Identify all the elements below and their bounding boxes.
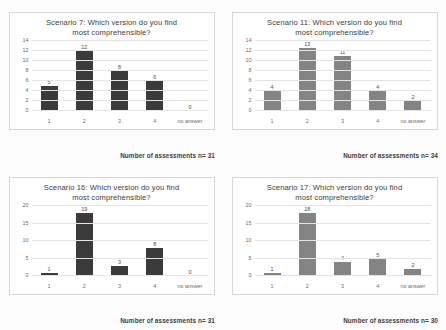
assessments-count: Number of assessments n= 31 (120, 317, 215, 324)
y-axis-tick-label: 10 (246, 57, 252, 63)
gridline: 15 (255, 223, 431, 224)
bar-slot: 1 (255, 206, 290, 276)
gridline: 0 (32, 110, 208, 111)
chart-title: Scenario 7: Which version do you find mo… (18, 18, 206, 38)
bar-value-label: 13 (304, 41, 310, 47)
gridline: 0 (255, 110, 431, 111)
x-axis-labels: 1234no answer (32, 283, 208, 289)
gridline: 8 (32, 70, 208, 71)
bar-slot: 19 (67, 206, 102, 276)
gridline: 6 (32, 80, 208, 81)
y-axis-tick-label: 12 (246, 47, 252, 53)
gridline: 10 (255, 60, 431, 61)
x-axis-tick-label: 1 (255, 283, 290, 289)
x-axis-tick-label: 3 (102, 118, 137, 124)
bar[interactable] (369, 259, 386, 277)
y-axis-tick-label: 5 (249, 255, 252, 261)
x-axis-tick-label: 4 (360, 283, 395, 289)
chart-sheet: Scenario 7: Which version do you find mo… (0, 0, 446, 330)
x-axis-tick-label: 4 (360, 118, 395, 124)
bar-slot: 0 (172, 206, 207, 276)
gridline: 14 (32, 40, 208, 41)
gridline: 12 (255, 50, 431, 51)
y-axis-tick-label: 0 (249, 107, 252, 113)
y-axis-tick-label: 4 (249, 87, 252, 93)
x-axis-labels: 1234no answer (32, 118, 208, 124)
x-axis-tick-label: 2 (67, 283, 102, 289)
gridline: 2 (255, 100, 431, 101)
bar-slot: 8 (137, 206, 172, 276)
bar-slot: 4 (325, 206, 360, 276)
y-axis-tick-label: 14 (246, 37, 252, 43)
x-axis-tick-label: 2 (290, 118, 325, 124)
bar[interactable] (146, 248, 163, 276)
gridline: 8 (255, 70, 431, 71)
chart-panel: Scenario 11: Which version do you find m… (232, 12, 438, 130)
chart-cell-scenario-11: Scenario 11: Which version do you find m… (223, 0, 446, 165)
bar[interactable] (146, 81, 163, 111)
bar-series: 119380 (32, 206, 208, 276)
gridline: 20 (32, 205, 208, 206)
y-axis-tick-label: 0 (249, 272, 252, 278)
chart-title: Scenario 17: Which version do you find m… (241, 183, 429, 203)
chart-cell-scenario-7: Scenario 7: Which version do you find mo… (0, 0, 223, 165)
chart-title-line-1: Scenario 11: Which version do you find (241, 18, 429, 28)
gridline: 10 (32, 60, 208, 61)
bar[interactable] (334, 262, 351, 276)
y-axis-tick-label: 0 (26, 272, 29, 278)
gridline: 10 (255, 240, 431, 241)
bar[interactable] (264, 91, 281, 111)
x-axis-labels: 1234no answer (255, 283, 431, 289)
gridline: 5 (255, 258, 431, 259)
chart-cell-scenario-16: Scenario 16: Which version do you find m… (0, 165, 223, 330)
gridline: 0 (255, 275, 431, 276)
bar-value-label: 1 (48, 266, 51, 272)
y-axis-tick-label: 14 (23, 37, 29, 43)
x-axis-tick-label: no answer (395, 283, 430, 289)
gridline: 0 (32, 275, 208, 276)
y-axis-tick-label: 10 (23, 237, 29, 243)
bar-slot: 3 (102, 206, 137, 276)
x-axis-tick-label: 3 (325, 118, 360, 124)
bar-slot: 2 (395, 206, 430, 276)
x-axis-tick-label: 1 (32, 118, 67, 124)
gridline: 6 (255, 80, 431, 81)
bar[interactable] (334, 56, 351, 111)
plot-area: 119380 05101520 (32, 206, 208, 276)
assessments-count: Number of assessments n= 31 (120, 152, 215, 159)
x-axis-labels: 1234no answer (255, 118, 431, 124)
y-axis-tick-label: 20 (246, 202, 252, 208)
bar-value-label: 8 (153, 241, 156, 247)
x-axis-tick-label: no answer (172, 283, 207, 289)
gridline: 4 (32, 90, 208, 91)
y-axis-tick-label: 15 (246, 220, 252, 226)
bar-value-label: 18 (304, 206, 310, 212)
y-axis-tick-label: 0 (26, 107, 29, 113)
gridline: 10 (32, 240, 208, 241)
gridline: 15 (32, 223, 208, 224)
x-axis-tick-label: 4 (137, 283, 172, 289)
gridline: 4 (255, 90, 431, 91)
y-axis-tick-label: 8 (249, 67, 252, 73)
y-axis-tick-label: 6 (249, 77, 252, 83)
chart-grid: Scenario 7: Which version do you find mo… (0, 0, 446, 330)
bar[interactable] (369, 91, 386, 111)
chart-title-line-2: most comprehensible? (18, 193, 206, 203)
y-axis-tick-label: 2 (249, 97, 252, 103)
bar-value-label: 1 (271, 266, 274, 272)
x-axis-tick-label: 3 (102, 283, 137, 289)
y-axis-tick-label: 10 (23, 57, 29, 63)
y-axis-tick-label: 12 (23, 47, 29, 53)
x-axis-tick-label: no answer (172, 118, 207, 124)
bar[interactable] (111, 71, 128, 111)
y-axis-tick-label: 8 (26, 67, 29, 73)
chart-title-line-1: Scenario 17: Which version do you find (241, 183, 429, 193)
plot-area: 512860 02468101214 (32, 41, 208, 111)
chart-title-line-2: most comprehensible? (18, 28, 206, 38)
y-axis-tick-label: 2 (26, 97, 29, 103)
y-axis-tick-label: 10 (246, 237, 252, 243)
y-axis-tick-label: 15 (23, 220, 29, 226)
assessments-count: Number of assessments n= 34 (343, 152, 438, 159)
x-axis-tick-label: 4 (137, 118, 172, 124)
y-axis-tick-label: 5 (26, 255, 29, 261)
